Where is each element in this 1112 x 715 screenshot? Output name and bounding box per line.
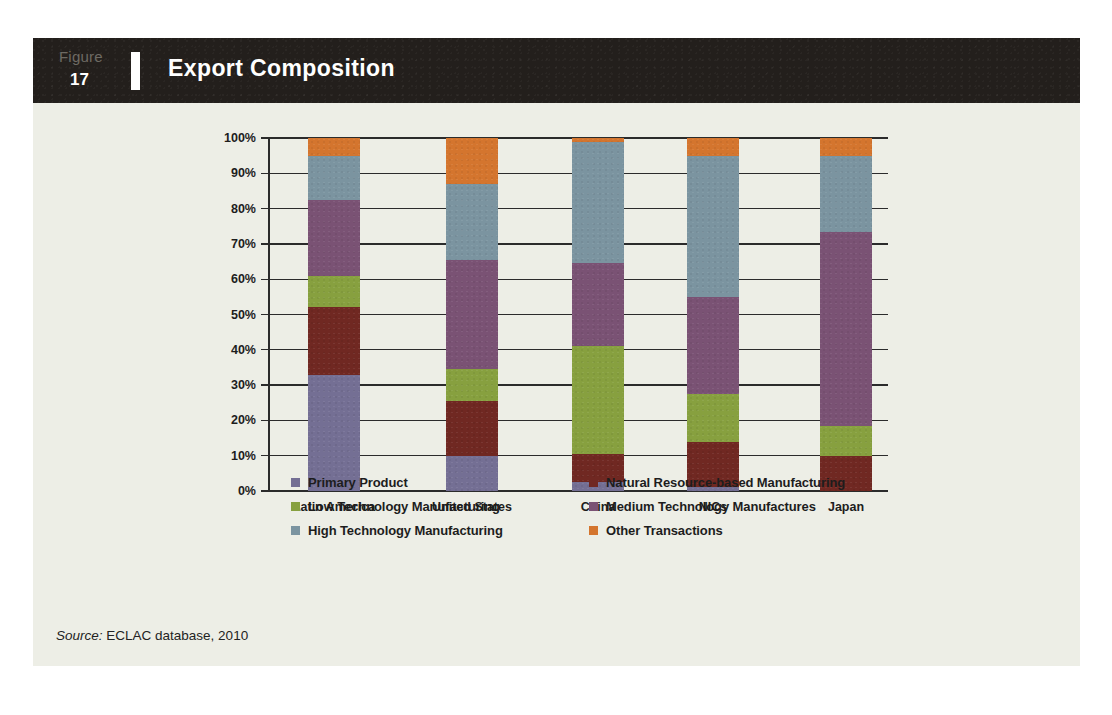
- bar-segment[interactable]: [446, 184, 498, 260]
- figure-title: Export Composition: [168, 55, 395, 82]
- figure-label: Figure: [59, 48, 103, 65]
- bar-segment[interactable]: [308, 200, 360, 276]
- legend-swatch-icon: [589, 502, 598, 511]
- legend-item[interactable]: Natural Resource-based Manufacturing: [589, 470, 845, 494]
- y-axis-tick: [261, 279, 268, 280]
- stacked-bar[interactable]: [820, 138, 872, 491]
- page-root: Figure 17 Export Composition 0%10%20%30%…: [0, 0, 1112, 715]
- figure-number: 17: [70, 70, 89, 90]
- legend-item[interactable]: Other Transactions: [589, 518, 845, 542]
- legend-column-two: Natural Resource-based ManufacturingMedi…: [589, 470, 845, 542]
- bar-segment[interactable]: [446, 369, 498, 401]
- legend-swatch-icon: [589, 478, 598, 487]
- y-axis-label: 30%: [231, 378, 256, 392]
- bar-segment[interactable]: [687, 394, 739, 442]
- legend-item[interactable]: Medium Technology Manufactures: [589, 494, 845, 518]
- legend-label: Natural Resource-based Manufacturing: [606, 475, 845, 490]
- y-axis-tick: [261, 490, 268, 491]
- y-axis-tick: [261, 384, 268, 385]
- bar-segment[interactable]: [687, 297, 739, 394]
- y-axis-tick: [261, 137, 268, 138]
- bar-segment[interactable]: [820, 138, 872, 156]
- legend-item[interactable]: Primary Product: [291, 470, 503, 494]
- legend-label: Primary Product: [308, 475, 408, 490]
- legend-label: Medium Technology Manufactures: [606, 499, 816, 514]
- y-axis-label: 60%: [231, 272, 256, 286]
- figure-sheet: Figure 17 Export Composition 0%10%20%30%…: [33, 38, 1080, 666]
- chart-container: 0%10%20%30%40%50%60%70%80%90%100% Latin …: [33, 103, 1080, 666]
- legend-label: High Technology Manufacturing: [308, 523, 503, 538]
- figure-divider-rule: [131, 52, 140, 90]
- legend-swatch-icon: [291, 502, 300, 511]
- y-axis-label: 100%: [224, 131, 256, 145]
- bar-segment[interactable]: [820, 156, 872, 232]
- stacked-bar[interactable]: [308, 138, 360, 491]
- legend-swatch-icon: [291, 478, 300, 487]
- y-axis-label: 0%: [238, 484, 256, 498]
- bar-segment[interactable]: [687, 156, 739, 297]
- bar-segment[interactable]: [308, 276, 360, 308]
- bar-segment[interactable]: [572, 263, 624, 346]
- source-text: ECLAC database, 2010: [106, 628, 248, 643]
- bar-segment[interactable]: [572, 142, 624, 264]
- bar-segment[interactable]: [446, 401, 498, 456]
- y-axis-tick: [261, 349, 268, 350]
- y-axis-tick: [261, 173, 268, 174]
- bar-segment[interactable]: [820, 426, 872, 456]
- plot-area: 0%10%20%30%40%50%60%70%80%90%100% Latin …: [268, 138, 888, 491]
- y-axis-label: 50%: [231, 308, 256, 322]
- y-axis-tick: [261, 208, 268, 209]
- legend-item[interactable]: High Technology Manufacturing: [291, 518, 503, 542]
- bar-segment[interactable]: [446, 138, 498, 184]
- source-note: Source: ECLAC database, 2010: [56, 628, 248, 643]
- bar-segment[interactable]: [572, 138, 624, 142]
- y-axis-label: 40%: [231, 343, 256, 357]
- bar-segment[interactable]: [687, 138, 739, 156]
- bar-segment[interactable]: [308, 138, 360, 156]
- stacked-bar[interactable]: [572, 138, 624, 491]
- y-axis-tick: [261, 243, 268, 244]
- y-axis-tick: [261, 314, 268, 315]
- stacked-bar[interactable]: [687, 138, 739, 491]
- figure-header-band: Figure 17 Export Composition: [33, 38, 1080, 103]
- bar-segment[interactable]: [446, 260, 498, 369]
- y-axis-label: 80%: [231, 202, 256, 216]
- y-axis-tick: [261, 455, 268, 456]
- source-prefix: Source:: [56, 628, 103, 643]
- bars-layer: [268, 138, 888, 491]
- y-axis-label: 10%: [231, 449, 256, 463]
- y-axis-label: 70%: [231, 237, 256, 251]
- legend-item[interactable]: Low Technology Manufacturing: [291, 494, 503, 518]
- legend-label: Other Transactions: [606, 523, 723, 538]
- legend-swatch-icon: [291, 526, 300, 535]
- y-axis-tick: [261, 420, 268, 421]
- bar-segment[interactable]: [820, 232, 872, 426]
- bar-segment[interactable]: [308, 307, 360, 374]
- legend-column-one: Primary ProductLow Technology Manufactur…: [291, 470, 503, 542]
- stacked-bar[interactable]: [446, 138, 498, 491]
- legend-swatch-icon: [589, 526, 598, 535]
- y-axis-label: 90%: [231, 166, 256, 180]
- y-axis-label: 20%: [231, 413, 256, 427]
- bar-segment[interactable]: [572, 346, 624, 454]
- bar-segment[interactable]: [308, 156, 360, 200]
- legend-label: Low Technology Manufacturing: [308, 499, 500, 514]
